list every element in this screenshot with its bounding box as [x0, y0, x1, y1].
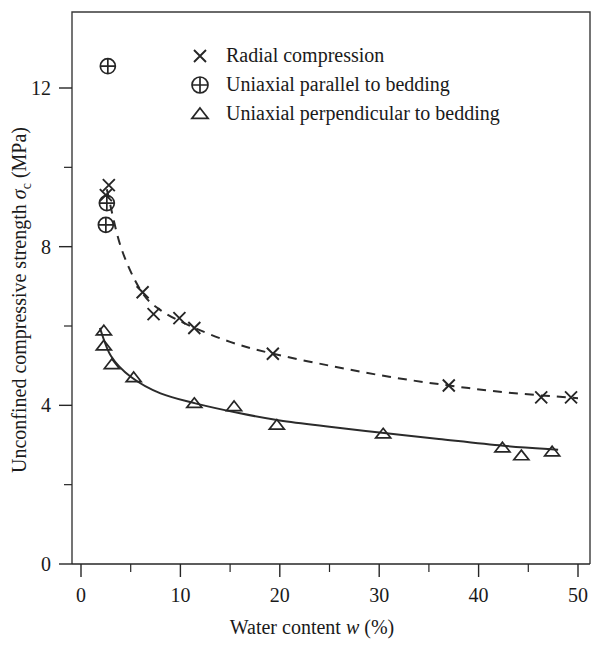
y-tick-label: 12 [31, 77, 51, 99]
series-points [96, 325, 559, 460]
marker-triangle [192, 108, 208, 118]
svg-text:Unconfined compressive strengt: Unconfined compressive strength σc (MPa) [8, 127, 34, 473]
marker-cross [188, 322, 200, 334]
marker-cross [194, 50, 206, 62]
y-tick-label: 4 [41, 394, 51, 416]
legend-label: Uniaxial parallel to bedding [226, 73, 450, 96]
series-points [98, 59, 115, 233]
marker-cross [535, 391, 547, 403]
series-curve [100, 328, 558, 450]
x-tick-label: 0 [76, 584, 86, 606]
y-axis-ticks: 04812 [31, 77, 72, 575]
y-tick-label: 8 [41, 236, 51, 258]
legend-label: Uniaxial perpendicular to bedding [226, 102, 500, 125]
marker-triangle [545, 446, 560, 456]
x-tick-label: 50 [568, 584, 588, 606]
scatter-plot-figure: 01020304050 04812 Radial compressionUnia… [0, 0, 601, 645]
x-tick-label: 10 [170, 584, 190, 606]
marker-triangle [514, 450, 529, 460]
marker-cross [148, 308, 160, 320]
chart-page: 01020304050 04812 Radial compressionUnia… [0, 0, 601, 645]
series-points [100, 179, 577, 403]
x-tick-label: 30 [369, 584, 389, 606]
axis-titles: Water content w (%)Unconfined compressiv… [8, 127, 394, 639]
marker-triangle [96, 325, 111, 335]
x-axis-ticks: 01020304050 [76, 564, 588, 606]
legend: Radial compressionUniaxial parallel to b… [192, 44, 500, 125]
marker-triangle [227, 401, 242, 411]
fitted-curves [100, 189, 578, 450]
y-axis-title: Unconfined compressive strength σc (MPa) [8, 127, 34, 473]
x-axis-title: Water content w (%) [230, 616, 394, 639]
x-tick-label: 40 [469, 584, 489, 606]
marker-cross [137, 286, 149, 298]
y-tick-label: 0 [41, 553, 51, 575]
x-tick-label: 20 [270, 584, 290, 606]
series-curve [107, 189, 578, 398]
legend-label: Radial compression [226, 44, 384, 67]
marker-cross [103, 179, 115, 191]
